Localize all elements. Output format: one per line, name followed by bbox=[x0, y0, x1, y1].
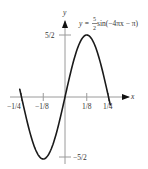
x-tick-label: 1/4 bbox=[103, 102, 113, 111]
x-tick-label: 1/8 bbox=[82, 102, 92, 111]
x-tick-label: −1/8 bbox=[35, 102, 49, 111]
sine-plot: x y 5/2 −5/2 −1/4 −1/8 1/8 1/4 y = 5 2 s… bbox=[0, 0, 148, 169]
equation-label: y = bbox=[78, 19, 89, 28]
x-tick-label: −1/4 bbox=[7, 102, 21, 111]
y-tick-label-bottom: −5/2 bbox=[73, 153, 87, 162]
x-axis-label: x bbox=[130, 92, 135, 101]
equation-fraction-numerator: 5 bbox=[93, 16, 96, 22]
y-tick-label-top: 5/2 bbox=[45, 31, 55, 40]
y-axis-label: y bbox=[62, 8, 67, 17]
equation-fraction-denominator: 2 bbox=[93, 25, 96, 31]
equation-function: sin(−4πx − π) bbox=[97, 19, 139, 28]
